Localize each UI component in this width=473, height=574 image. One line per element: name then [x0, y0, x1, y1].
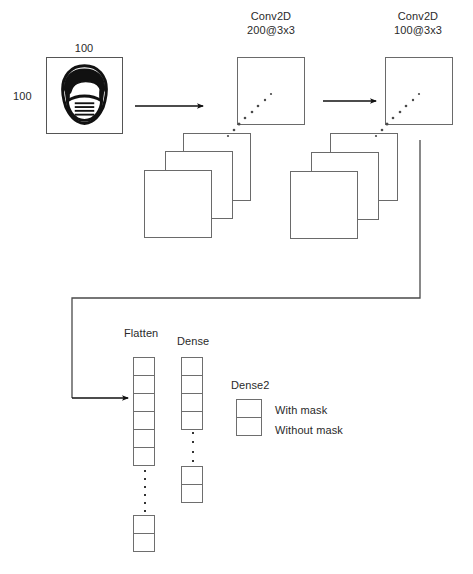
dense-ellipsis [191, 432, 194, 462]
flatten-dot [144, 510, 146, 512]
conv1-feature-map-back [144, 170, 212, 238]
dense-cell [181, 357, 203, 376]
conv2-layer-label: Conv2D [378, 10, 458, 23]
flatten-dot [144, 486, 146, 488]
cnn-architecture-diagram: 100 100 Conv2D 200@3x3 Conv2D 100@3x3 [0, 0, 473, 574]
flatten-dot [144, 494, 146, 496]
flatten-cell [133, 429, 155, 448]
flatten-dot [144, 478, 146, 480]
flatten-ellipsis [143, 470, 146, 512]
masked-face-icon [47, 58, 122, 133]
conv1-feature-map-front [237, 57, 305, 125]
dense-cell [181, 484, 203, 503]
conv1-layer-label: Conv2D [231, 10, 311, 23]
flatten-cell [133, 411, 155, 430]
conv2-spec-label: 100@3x3 [378, 24, 458, 37]
legend-without-mask-label: Without mask [275, 424, 343, 437]
dense2-cells [236, 399, 262, 436]
flatten-label: Flatten [124, 327, 158, 340]
conv2-feature-map-front [385, 57, 453, 125]
dense-dot [192, 460, 194, 462]
flatten-cell [133, 447, 155, 466]
dense2-label: Dense2 [231, 379, 270, 392]
flatten-cell [133, 393, 155, 412]
dense-label: Dense [177, 335, 209, 348]
dense-dot [192, 451, 194, 453]
dense-cell [181, 375, 203, 394]
input-height-label: 100 [13, 90, 32, 103]
dense2-cell [236, 417, 262, 436]
flatten-cell [133, 357, 155, 376]
dense2-cell [236, 399, 262, 418]
dense-cell [181, 393, 203, 412]
flatten-cell [133, 375, 155, 394]
dense-dot [192, 441, 194, 443]
flatten-dot [144, 502, 146, 504]
dense-bottom-cells [181, 466, 203, 503]
flatten-cell [133, 515, 155, 534]
legend-with-mask-label: With mask [275, 404, 327, 417]
dense-cell [181, 411, 203, 430]
conv1-spec-label: 200@3x3 [231, 24, 311, 37]
conv2-feature-map-back [290, 171, 358, 239]
input-image-frame [46, 57, 123, 134]
dense-dot [192, 432, 194, 434]
dense-top-cells [181, 357, 203, 430]
flatten-dot [144, 470, 146, 472]
input-width-label: 100 [59, 42, 109, 55]
flatten-top-cells [133, 357, 155, 466]
flatten-bottom-cells [133, 515, 155, 552]
flatten-cell [133, 533, 155, 552]
dense-cell [181, 466, 203, 485]
